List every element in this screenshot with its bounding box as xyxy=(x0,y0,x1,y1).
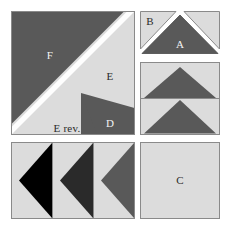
peak-unit-svg: B A xyxy=(140,11,220,56)
piece-label-d: D xyxy=(106,117,114,129)
arrow-strip-svg xyxy=(11,142,135,219)
flying-geese-unit xyxy=(140,62,220,135)
quilt-piecing-diagram: F E D E rev. B A xyxy=(0,0,231,230)
piece-label-e-rev: E rev. xyxy=(54,122,81,134)
plain-square-svg: C xyxy=(140,142,220,219)
piece-label-c: C xyxy=(176,174,184,186)
large-square-unit-svg: F E D E rev. xyxy=(11,11,135,135)
piece-label-b: B xyxy=(146,15,154,27)
arrow-strip-unit xyxy=(11,142,135,219)
flying-geese-svg xyxy=(140,62,220,135)
large-square-unit: F E D E rev. xyxy=(11,11,135,135)
piece-label-a: A xyxy=(176,38,184,50)
piece-label-e: E xyxy=(107,70,114,82)
piece-label-f: F xyxy=(47,49,53,61)
plain-square-unit: C xyxy=(140,142,220,219)
peak-unit: B A xyxy=(140,11,220,56)
